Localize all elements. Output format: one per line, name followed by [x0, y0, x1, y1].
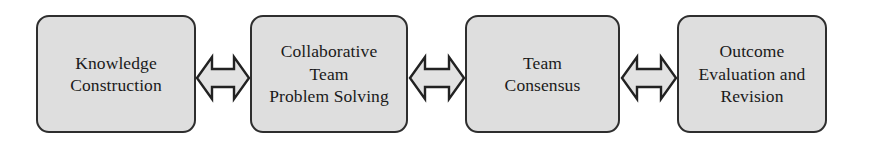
- process-box-label: Knowledge Construction: [65, 52, 167, 97]
- process-box-outcome-evaluation-and-revision[interactable]: Outcome Evaluation and Revision: [677, 15, 827, 133]
- diagram-canvas: Knowledge Construction Collaborative Tea…: [0, 0, 875, 154]
- bidirectional-arrow-icon-2: [408, 45, 466, 111]
- process-box-collaborative-team-problem-solving[interactable]: Collaborative Team Problem Solving: [250, 15, 408, 133]
- process-box-label: Team Consensus: [500, 52, 586, 97]
- process-box-label: Outcome Evaluation and Revision: [694, 40, 811, 107]
- bidirectional-arrow-icon-1: [195, 45, 251, 111]
- process-box-team-consensus[interactable]: Team Consensus: [465, 15, 620, 133]
- process-box-knowledge-construction[interactable]: Knowledge Construction: [36, 15, 196, 133]
- process-box-label: Collaborative Team Problem Solving: [264, 40, 394, 107]
- bidirectional-arrow-icon-3: [620, 45, 678, 111]
